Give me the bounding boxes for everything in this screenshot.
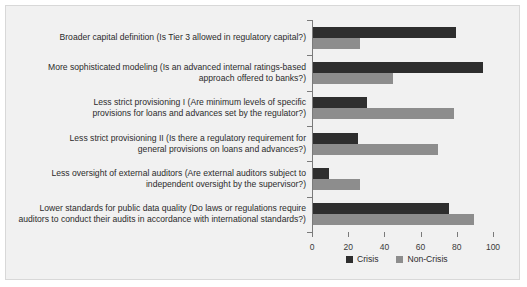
category-tick [307,197,312,198]
bar-crisis [313,27,456,38]
bar-non-crisis [313,38,360,49]
category-tick [307,20,312,21]
category-tick [307,91,312,92]
bar-non-crisis [313,214,474,225]
category-tick [307,55,312,56]
bar-group [313,20,494,55]
legend-item-crisis[interactable]: Crisis [346,254,378,264]
category-label-line: provisions for loans and advances set by… [14,108,306,119]
x-axis-tick-label: 20 [343,242,352,252]
bar-crisis [313,62,483,73]
bar-non-crisis [313,108,454,119]
plot-area: 020406080100 [312,20,493,232]
category-label: Less oversight of external auditors (Are… [14,168,306,190]
x-axis-tick [348,232,349,237]
bar-group [313,126,494,161]
category-tick [307,232,312,233]
category-label-line: Less strict provisioning I (Are minimum … [14,97,306,108]
category-label-line: Broader capital definition (Is Tier 3 al… [14,32,306,43]
x-axis-tick-label: 80 [452,242,461,252]
category-label-line: independent oversight by the supervisor?… [14,179,306,190]
category-label-line: Less oversight of external auditors (Are… [14,168,306,179]
category-label-line: auditors to conduct their audits in acco… [14,214,306,225]
category-label: Less strict provisioning I (Are minimum … [14,97,306,119]
category-label-line: Lower standards for public data quality … [14,203,306,214]
x-axis-tick [384,232,385,237]
x-axis-tick-label: 40 [380,242,389,252]
bar-crisis [313,203,449,214]
x-axis-tick [421,232,422,237]
bar-crisis [313,97,367,108]
category-tick [307,126,312,127]
bar-group [313,91,494,126]
x-axis-tick-label: 100 [486,242,500,252]
bar-group [313,197,494,232]
x-axis-tick [493,232,494,237]
chart-legend: CrisisNon-Crisis [346,254,448,264]
bar-non-crisis [313,73,393,84]
legend-swatch-icon [346,256,353,263]
x-axis-tick-label: 0 [310,242,315,252]
x-axis-tick [457,232,458,237]
category-label-line: Less strict provisioning II (Is there a … [14,133,306,144]
x-axis-tick-label: 60 [416,242,425,252]
legend-label: Crisis [357,254,378,264]
category-tick [307,161,312,162]
category-label: Less strict provisioning II (Is there a … [14,133,306,155]
category-label: More sophisticated modeling (Is an advan… [14,62,306,84]
legend-swatch-icon [396,256,403,263]
legend-item-non-crisis[interactable]: Non-Crisis [396,254,447,264]
x-axis-tick [312,232,313,237]
category-label-line: More sophisticated modeling (Is an advan… [14,62,306,73]
category-label-line: general provisions on loans and advances… [14,144,306,155]
bar-group [313,55,494,90]
category-label-line: approach offered to banks?) [14,73,306,84]
bar-non-crisis [313,144,438,155]
category-label-column: Broader capital definition (Is Tier 3 al… [14,20,306,232]
category-label: Lower standards for public data quality … [14,203,306,225]
bar-crisis [313,168,329,179]
category-label: Broader capital definition (Is Tier 3 al… [14,32,306,43]
bar-crisis [313,133,358,144]
chart-figure: Broader capital definition (Is Tier 3 al… [5,5,520,280]
bar-group [313,161,494,196]
bar-non-crisis [313,179,360,190]
legend-label: Non-Crisis [407,254,447,264]
